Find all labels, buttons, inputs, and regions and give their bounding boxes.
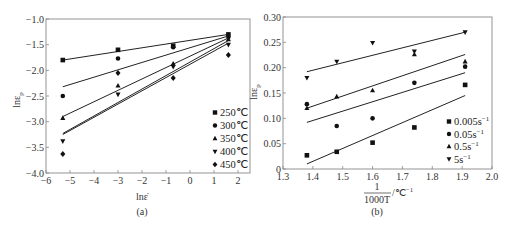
y-tick-label: 0: [276, 164, 281, 175]
x-label-unit: /℃−1: [392, 186, 414, 198]
data-point: [463, 64, 468, 69]
y-tick-label: 0.20: [264, 62, 282, 73]
panel-a-y-axis-label: lnεp: [11, 92, 25, 108]
data-point: [463, 83, 468, 88]
panel-b-x-axis-label: 1 1000T /℃−1: [364, 181, 414, 205]
x-label-numerator: 1: [375, 181, 380, 192]
panel-a-chart: −6−5−4−3−2−1012 −1.0−1.5−2.0−2.5−3.0−3.5…: [11, 14, 250, 219]
legend-item-label: 350℃: [220, 133, 248, 144]
fit-line: [63, 36, 229, 87]
data-point: [61, 94, 66, 99]
legend-marker-icon: [447, 157, 452, 161]
x-tick-label: −3: [113, 175, 124, 186]
legend-marker-icon: [213, 110, 217, 114]
y-tick-label: −3.5: [26, 142, 44, 153]
data-point: [226, 43, 231, 48]
data-point: [61, 58, 66, 63]
data-point: [116, 56, 121, 61]
panel-b-chart: 1.31.41.51.61.71.81.92.0 00.050.100.150.…: [248, 12, 498, 219]
legend-item-label: 5s−1: [454, 153, 471, 165]
legend-marker-icon: [213, 150, 218, 154]
panel-b-caption: (b): [371, 206, 383, 218]
panel-b-legend: 0.005s−10.05s−10.5s−15s−1: [447, 115, 490, 165]
y-tick-label: −1.5: [26, 39, 44, 50]
legend-marker-icon: [213, 162, 218, 168]
y-tick-label: −1.0: [26, 14, 44, 25]
legend-item-label: 0.005s−1: [454, 115, 490, 127]
data-point: [116, 48, 121, 53]
panel-a-x-axis-label: lnε̇: [136, 191, 149, 202]
x-tick-label: 0: [188, 175, 193, 186]
y-tick-label: 0.10: [264, 113, 282, 124]
x-tick-label: −4: [89, 175, 100, 186]
x-tick-label: −5: [65, 175, 76, 186]
fit-line: [63, 34, 229, 60]
x-tick-label: 1.8: [426, 171, 439, 182]
data-point: [463, 59, 468, 64]
data-point: [305, 153, 310, 158]
legend-item-label: 400℃: [220, 146, 248, 157]
x-tick-label: 1.9: [456, 171, 469, 182]
figure: −6−5−4−3−2−1012 −1.0−1.5−2.0−2.5−3.0−3.5…: [0, 0, 507, 229]
data-point: [370, 41, 375, 46]
data-point: [412, 81, 417, 86]
data-point: [334, 94, 339, 99]
data-point: [370, 88, 375, 93]
fit-line: [307, 54, 465, 108]
data-point: [226, 52, 231, 58]
panel-a-legend: 250℃300℃350℃400℃450℃: [213, 107, 248, 170]
y-tick-label: −2.0: [26, 65, 44, 76]
x-tick-label: 2.0: [486, 171, 499, 182]
legend-item-label: 450℃: [220, 159, 248, 170]
legend-marker-icon: [447, 132, 451, 136]
data-point: [334, 149, 339, 154]
x-tick-label: 1: [212, 175, 217, 186]
data-point: [412, 50, 417, 55]
legend-marker-icon: [447, 119, 451, 123]
y-tick-label: 0.15: [264, 88, 282, 99]
legend-item-label: 0.5s−1: [454, 140, 479, 152]
panel-a-caption: (a): [136, 206, 147, 218]
panel-b-x-axis: 1.31.41.51.61.71.81.92.0: [277, 166, 499, 182]
x-tick-label: −2: [137, 175, 148, 186]
panel-a-x-axis: −6−5−4−3−2−1012: [41, 170, 241, 186]
x-tick-label: 2: [236, 175, 241, 186]
data-point: [115, 93, 120, 98]
panel-a-y-axis: −1.0−1.5−2.0−2.5−3.0−3.5−4.0: [26, 14, 49, 179]
data-point: [60, 151, 65, 157]
x-label-denominator: 1000T: [364, 194, 390, 205]
data-point: [60, 139, 65, 144]
fit-line: [307, 32, 465, 72]
y-tick-label: 0.30: [264, 12, 282, 23]
legend-item-label: 250℃: [220, 107, 248, 118]
y-tick-label: −2.5: [26, 91, 44, 102]
panel-a-data-points: [60, 32, 231, 157]
legend-marker-icon: [213, 136, 218, 140]
data-point: [304, 76, 309, 81]
legend-marker-icon: [447, 144, 452, 148]
x-tick-label: 1.5: [336, 171, 349, 182]
fit-line: [63, 43, 229, 134]
y-tick-label: −4.0: [26, 168, 44, 179]
data-point: [171, 65, 176, 70]
panel-b-fit-lines: [307, 32, 465, 164]
data-point: [370, 116, 375, 121]
data-point: [171, 75, 176, 81]
panel-a-fit-lines: [63, 34, 229, 134]
data-point: [334, 124, 339, 129]
y-tick-label: −3.0: [26, 116, 44, 127]
data-point: [115, 83, 120, 88]
x-tick-label: −1: [161, 175, 172, 186]
y-tick-label: 0.25: [264, 37, 282, 48]
legend-item-label: 300℃: [220, 120, 248, 131]
data-point: [412, 125, 417, 130]
fit-line: [63, 41, 229, 134]
x-tick-label: 1.4: [307, 171, 320, 182]
data-point: [171, 45, 176, 50]
data-point: [370, 140, 375, 145]
fit-line: [307, 96, 465, 164]
legend-marker-icon: [213, 123, 217, 127]
panel-b-data-points: [304, 30, 467, 157]
legend-item-label: 0.05s−1: [454, 128, 484, 140]
y-tick-label: 0.05: [264, 138, 282, 149]
